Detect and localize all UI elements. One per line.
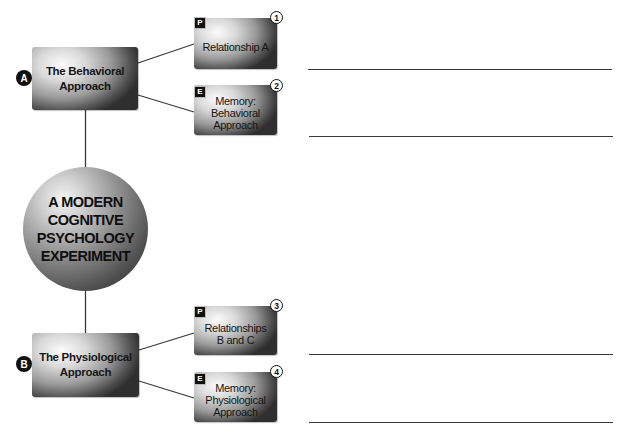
connector-a-to-item-2: [138, 95, 194, 112]
connector-b-to-item-3: [139, 333, 194, 350]
number-3-badge: 3: [270, 299, 283, 312]
answer-line-4[interactable]: [309, 422, 613, 423]
type-e-badge: E: [195, 87, 205, 97]
center-sphere: A MODERN COGNITIVE PSYCHOLOGY EXPERIMENT: [23, 167, 148, 291]
number-4-badge: 4: [270, 365, 283, 378]
relationship-a-label: Relationship A: [202, 41, 268, 53]
relationships-b-c-box: Relationships B and C: [194, 306, 277, 355]
answer-line-1[interactable]: [308, 69, 612, 70]
memory-physiological-box: Memory: Physiological Approach: [194, 372, 277, 422]
behavioral-approach-box: The Behavioral Approach: [32, 47, 138, 110]
answer-line-2[interactable]: [309, 136, 613, 137]
connector-a-to-item-1: [138, 44, 194, 63]
type-p-badge: P: [195, 307, 205, 317]
center-label: A MODERN COGNITIVE PSYCHOLOGY EXPERIMENT: [37, 193, 134, 265]
physiological-approach-label: The Physiological Approach: [39, 350, 132, 380]
behavioral-approach-label: The Behavioral Approach: [46, 64, 124, 94]
answer-line-3[interactable]: [309, 354, 613, 355]
relationship-a-box: Relationship A: [194, 18, 277, 69]
memory-behavioral-box: Memory: Behavioral Approach: [194, 85, 277, 135]
relationships-b-c-label: Relationships B and C: [204, 322, 266, 346]
physiological-approach-box: The Physiological Approach: [32, 333, 139, 397]
section-a-badge: A: [16, 70, 32, 86]
number-1-badge: 1: [270, 11, 283, 24]
memory-behavioral-label: Memory: Behavioral Approach: [211, 95, 260, 131]
number-2-badge: 2: [270, 79, 283, 92]
memory-physiological-label: Memory: Physiological Approach: [205, 382, 265, 418]
type-p-badge: P: [195, 18, 205, 28]
connector-b-to-item-4: [139, 381, 194, 398]
section-b-badge: B: [16, 356, 32, 372]
type-e-badge: E: [195, 374, 205, 384]
concept-map: The Behavioral Approach A Relationship A…: [0, 0, 630, 436]
